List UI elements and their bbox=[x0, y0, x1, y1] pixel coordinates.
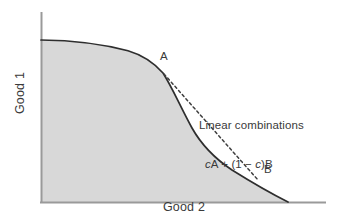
y-axis-title: Good 1 bbox=[13, 61, 27, 125]
formula-middle: A + (1 − bbox=[211, 158, 255, 170]
ppf-figure: Good 1 Good 2 A B Linear combinations cA… bbox=[0, 0, 344, 222]
x-axis-title: Good 2 bbox=[132, 200, 236, 214]
point-a-label: A bbox=[160, 50, 168, 63]
annotation-formula: cA + (1 − c)B bbox=[205, 158, 304, 171]
annotation-line-1: Linear combinations bbox=[199, 119, 304, 132]
formula-suffix: )B bbox=[261, 158, 273, 170]
linear-combinations-annotation: Linear combinations cA + (1 − c)B bbox=[199, 93, 304, 197]
